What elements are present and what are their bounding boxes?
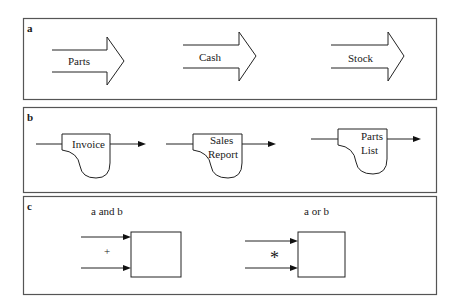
process-box [131,232,181,277]
document-label-line1: Sales [210,134,233,146]
panel-b-label: b [27,111,33,123]
flow-arrow-label: Cash [199,51,222,63]
and-operator-icon: + [104,245,110,257]
panel-b: b Invoice Sales Report Parts List [24,108,437,193]
panel-c-frame [24,197,437,295]
arrowhead-icon [268,141,276,147]
flow-arrow-cash: Cash [183,32,256,81]
arrowhead-icon [290,265,298,271]
arrowhead-icon [413,136,421,142]
document-label-line1: Parts [361,130,383,142]
document-label: Invoice [72,138,105,150]
panel-c-label: c [27,200,32,212]
document-label-line2: Report [208,148,238,160]
flow-arrow-label: Stock [348,52,374,64]
flow-arrow-label: Parts [68,55,90,67]
process-box [298,232,345,277]
panel-c: c a and b + a or b * [24,197,437,295]
panel-a-label: a [27,22,33,34]
junction-and: a and b + [81,205,181,277]
arrowhead-icon [290,238,298,244]
flow-arrow-stock: Stock [331,32,404,81]
document-parts-list: Parts List [311,129,421,174]
document-label-line2: List [361,144,378,156]
panel-a: a Parts Cash Stock [24,19,437,100]
junction-or: a or b * [245,205,345,277]
junction-title: a or b [304,205,330,217]
arrowhead-icon [123,234,131,240]
arrowhead-icon [123,265,131,271]
junction-title: a and b [91,205,123,217]
document-sales-report: Sales Report [166,134,276,178]
diagram-canvas: a Parts Cash Stock b Invoice [0,0,458,306]
arrowhead-icon [138,141,146,147]
flow-arrow-parts: Parts [52,37,124,85]
document-invoice: Invoice [36,134,146,178]
or-operator-icon: * [270,248,279,268]
